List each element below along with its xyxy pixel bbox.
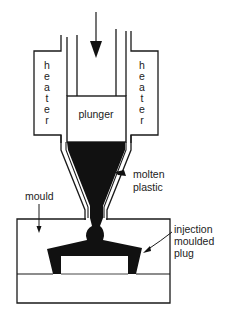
- plunger-label: plunger: [78, 108, 114, 120]
- plug-label-line1: injection: [174, 223, 213, 235]
- molten-plastic-label-line1: molten: [133, 168, 165, 180]
- svg-text:r: r: [45, 114, 49, 126]
- force-arrow-icon: [90, 12, 102, 58]
- plug-label-line2: moulded: [174, 235, 214, 247]
- svg-text:r: r: [140, 114, 144, 126]
- injection-moulding-diagram: plunger mould molten plastic injection m…: [0, 0, 225, 323]
- plug-label-line3: plug: [174, 247, 194, 259]
- heater-left-label: h e a t e r: [44, 59, 50, 126]
- plunger: plunger: [67, 96, 126, 142]
- plug-pointer-arrow-icon: [143, 232, 172, 253]
- moulded-plug: [47, 218, 142, 274]
- heater-right-label: h e a t e r: [139, 59, 145, 126]
- molten-plastic-fill: [67, 142, 125, 218]
- molten-plastic-label-line2: plastic: [133, 181, 163, 193]
- mould-label: mould: [25, 190, 54, 202]
